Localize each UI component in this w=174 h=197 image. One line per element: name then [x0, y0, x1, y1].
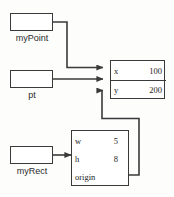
field-value-h: 8 [114, 154, 130, 164]
connector-mypoint-to-point [53, 22, 104, 68]
field-value-x: 100 [149, 66, 166, 76]
variable-label-pt: pt [6, 90, 58, 100]
field-row-origin: origin [72, 168, 130, 185]
field-name-w: w [72, 136, 81, 146]
field-row-y: y 200 [111, 81, 166, 98]
variable-label-myrect: myRect [6, 166, 58, 176]
field-row-x: x 100 [111, 62, 166, 80]
variable-box-mypoint [10, 13, 53, 31]
field-value-y: 200 [149, 85, 166, 95]
object-box-point: x 100 y 200 [110, 60, 165, 99]
field-name-y: y [111, 85, 118, 95]
field-name-x: x [111, 66, 118, 76]
variable-label-mypoint: myPoint [6, 33, 58, 43]
field-row-h: h 8 [72, 150, 130, 168]
field-name-h: h [72, 154, 79, 164]
field-row-w: w 5 [72, 132, 130, 150]
diagram-canvas: myPoint pt myRect x 100 y 200 w 5 h 8 or… [0, 0, 174, 197]
variable-box-myrect [10, 146, 53, 164]
variable-box-pt [10, 70, 53, 88]
object-box-rect: w 5 h 8 origin [71, 130, 129, 186]
field-value-w: 5 [114, 136, 130, 146]
field-name-origin: origin [72, 172, 95, 182]
